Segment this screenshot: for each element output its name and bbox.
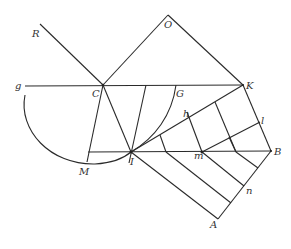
line-IA [131, 152, 218, 219]
line-CI [103, 85, 131, 152]
line-short-3 [229, 137, 236, 152]
label-C: C [92, 88, 100, 99]
label-K: K [245, 80, 254, 91]
label-G: G [176, 88, 184, 99]
label-h: h [183, 108, 189, 119]
line-short-1 [160, 135, 166, 152]
label-M: M [78, 166, 90, 177]
point-C [102, 84, 105, 87]
label-l: l [261, 115, 264, 126]
point-K [242, 84, 244, 86]
arc-gMI [24, 95, 131, 164]
line-ml [202, 122, 260, 152]
label-R: R [31, 28, 40, 39]
line-CO [103, 15, 168, 85]
label-I: I [129, 156, 135, 167]
label-g: g [15, 80, 21, 91]
label-n: n [246, 185, 252, 196]
line-MB [88, 151, 271, 152]
line-OK [168, 15, 243, 85]
arc-IG [131, 85, 176, 152]
line-RC [40, 24, 103, 85]
line-par-2 [202, 152, 244, 186]
line-BA [218, 151, 271, 219]
geometric-diagram: R O g C G K h l M I m B n A [0, 0, 291, 249]
label-A: A [209, 219, 217, 230]
label-m: m [194, 150, 203, 161]
label-O: O [164, 19, 172, 30]
point-B [270, 150, 272, 152]
point-I [130, 151, 133, 154]
line-par-3 [236, 152, 258, 168]
line-KB [243, 85, 271, 151]
line-gK [25, 85, 243, 86]
label-B: B [273, 146, 281, 157]
